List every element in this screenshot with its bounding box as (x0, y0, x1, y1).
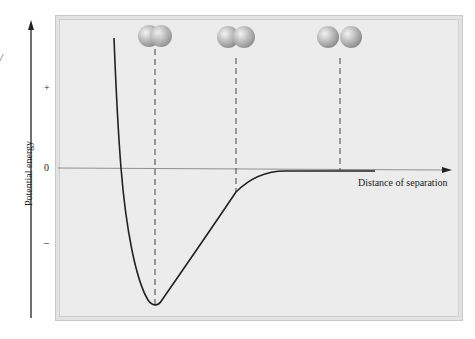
x-axis (58, 167, 452, 173)
stray-mark: / (0, 52, 3, 63)
molecule-overlapping-icon (138, 25, 172, 47)
y-tick-plus: + (44, 82, 50, 93)
y-tick-zero: 0 (44, 162, 49, 173)
y-axis-arrow-icon (28, 20, 34, 30)
potential-energy-curve (114, 38, 375, 305)
x-axis-label: Distance of separation (358, 177, 447, 188)
y-axis-label: Potential energy (23, 134, 34, 214)
x-axis-arrow-icon (442, 167, 452, 173)
potential-energy-diagram (0, 0, 475, 339)
y-tick-minus: – (44, 237, 49, 248)
molecule-touching-icon (217, 26, 255, 48)
molecule-separated-icon (317, 26, 362, 48)
